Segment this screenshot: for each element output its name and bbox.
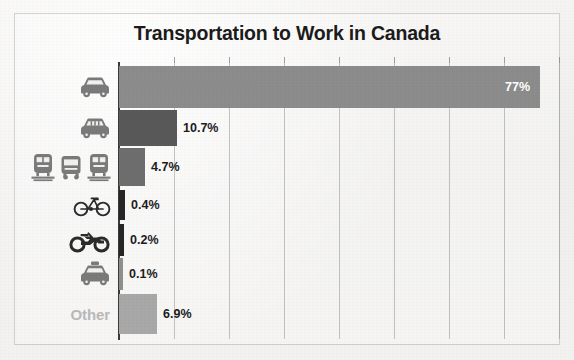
axis-tick	[449, 57, 450, 63]
category-icon-bicycle	[0, 190, 112, 220]
bar-row: 0.2%	[119, 224, 560, 256]
category-icon-car	[0, 66, 112, 108]
bar-bicycle	[119, 190, 125, 220]
axis-tick	[284, 57, 285, 63]
axis-tick	[504, 57, 505, 63]
bar-transit	[119, 148, 145, 186]
taxi-icon	[78, 261, 112, 287]
bar-row: 4.7%	[119, 148, 560, 186]
bar-value-label: 0.2%	[130, 233, 159, 247]
bar-row: 0.1%	[119, 258, 560, 290]
bar-car	[119, 66, 540, 108]
bar-value-label: 4.7%	[151, 160, 180, 174]
category-icon-carpool	[0, 110, 112, 146]
subway-icon	[86, 152, 112, 182]
axis-tick	[559, 57, 560, 63]
motorcycle-icon	[68, 227, 112, 253]
category-icon-transit	[0, 148, 112, 186]
bar-motorcycle	[119, 224, 124, 256]
bar-row: 77%	[119, 66, 560, 108]
bar-value-label: 77%	[505, 80, 530, 94]
bar-carpool	[119, 110, 177, 146]
bar-value-label: 6.9%	[163, 307, 192, 321]
bar-other	[119, 294, 157, 334]
axis-tick	[339, 57, 340, 63]
chart-page: Transportation to Work in Canada	[0, 0, 574, 360]
axis-tick	[229, 57, 230, 63]
category-icon-taxi	[0, 258, 112, 290]
bar-value-label: 0.4%	[131, 198, 160, 212]
bus-icon	[59, 152, 83, 182]
bicycle-icon	[72, 193, 112, 217]
train-icon	[30, 152, 56, 182]
bar-row: 10.7%	[119, 110, 560, 146]
carpool-icon	[78, 116, 112, 140]
axis-tick	[174, 57, 175, 63]
bar-row: 0.4%	[119, 190, 560, 220]
chart-title: Transportation to Work in Canada	[0, 22, 574, 45]
bar-value-label: 10.7%	[183, 121, 218, 135]
bar-taxi	[119, 258, 123, 290]
car-icon	[78, 75, 112, 99]
category-icon-motorcycle	[0, 224, 112, 256]
category-label-other: Other	[0, 294, 112, 334]
bar-value-label: 0.1%	[129, 267, 158, 281]
bar-row: 6.9%	[119, 294, 560, 334]
other-label-text: Other	[70, 306, 112, 323]
axis-tick	[394, 57, 395, 63]
